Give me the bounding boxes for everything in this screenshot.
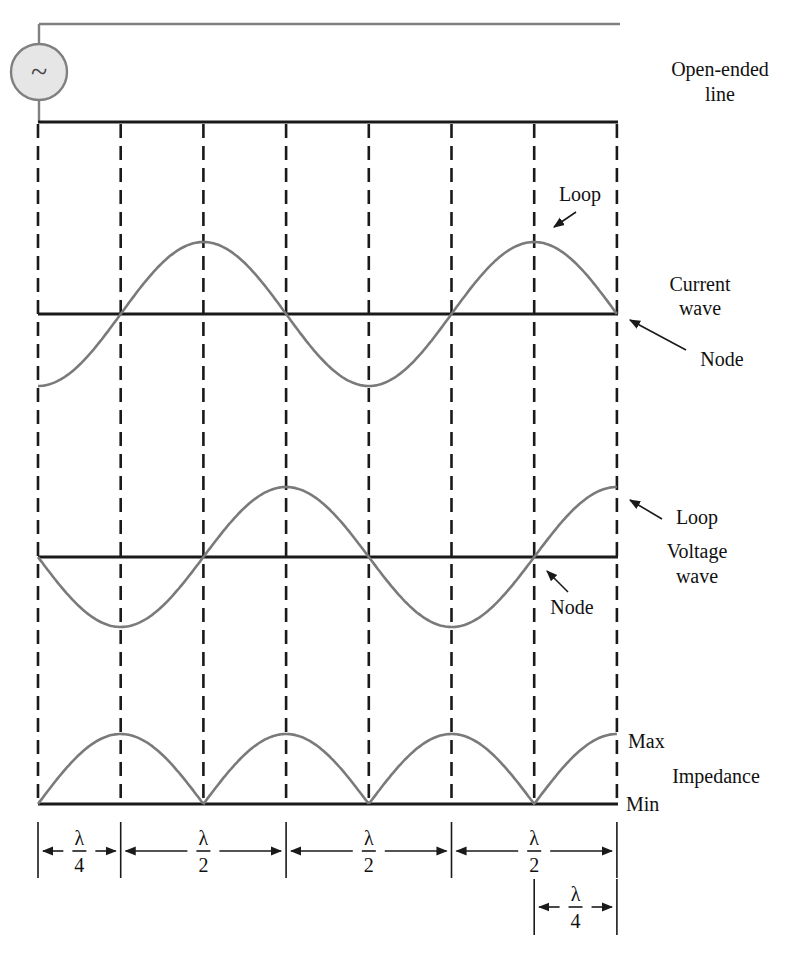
impedance-label: Impedance — [672, 765, 760, 788]
dimension-1: λ2 — [126, 827, 281, 876]
current-wave-label: Current — [669, 273, 731, 295]
fraction-denominator: 2 — [198, 854, 208, 876]
dimension-0: λ4 — [43, 827, 116, 876]
fraction-numerator: λ — [74, 827, 84, 849]
wavelength-dimensions: λ4λ2λ2λ2λ4 — [38, 822, 617, 935]
fraction-denominator: 4 — [571, 910, 581, 932]
voltage-node-label: Node — [550, 596, 593, 618]
current-wave-label-2: wave — [679, 297, 721, 319]
current-node-label: Node — [700, 348, 743, 370]
fraction-numerator: λ — [529, 827, 539, 849]
dimension-4: λ4 — [539, 883, 612, 932]
current-node-arrow — [630, 320, 686, 350]
fraction-denominator: 2 — [529, 854, 539, 876]
source-circuit: ~ — [11, 24, 620, 122]
line-type-label-2: line — [705, 83, 735, 105]
transmission-line-diagram: ~ Open-ended line Loop Current wave Node… — [0, 0, 798, 962]
line-type-label: Open-ended — [671, 58, 769, 81]
source-symbol: ~ — [31, 55, 47, 88]
current-loop-arrow — [554, 212, 576, 227]
fraction-numerator: λ — [199, 827, 209, 849]
fraction-denominator: 4 — [74, 854, 84, 876]
fraction-numerator: λ — [571, 883, 581, 905]
quarter-wave-markers — [38, 124, 617, 802]
impedance-curve — [38, 734, 617, 804]
current-loop-label: Loop — [559, 183, 601, 206]
fraction-denominator: 2 — [364, 854, 374, 876]
voltage-wave-label: Voltage — [667, 540, 728, 563]
dimension-3: λ2 — [457, 827, 612, 876]
fraction-numerator: λ — [364, 827, 374, 849]
max-label: Max — [628, 730, 665, 752]
dimension-2: λ2 — [291, 827, 446, 876]
voltage-loop-label: Loop — [676, 506, 718, 529]
voltage-loop-arrow — [630, 500, 662, 519]
min-label: Min — [626, 793, 659, 815]
voltage-node-arrow — [547, 571, 568, 592]
voltage-wave-label-2: wave — [676, 565, 718, 587]
